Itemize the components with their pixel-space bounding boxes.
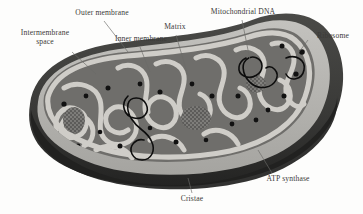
label-atp-synthase: ATP synthase — [255, 174, 321, 183]
label-matrix: Matrix — [157, 22, 193, 31]
label-cristae: Cristae — [172, 194, 212, 203]
label-mitochondrial-dna: Mitochondrial DNA — [197, 7, 289, 16]
mitochondrion-figure: Outer membrane Intermembrane space Inner… — [0, 0, 363, 214]
label-inner-membrane: Inner membrane — [104, 34, 178, 43]
label-outer-membrane: Outer membrane — [60, 8, 144, 17]
label-ribosome: Ribosome — [306, 31, 360, 40]
label-intermembrane-space: Intermembrane space — [10, 28, 80, 47]
